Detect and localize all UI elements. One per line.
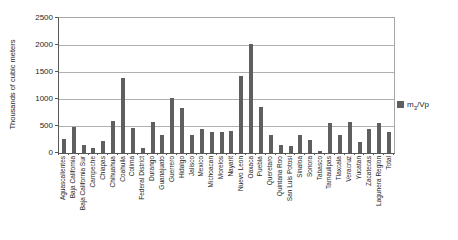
x-tick-mark (245, 153, 246, 155)
x-tick-mark (196, 153, 197, 155)
x-category-label: Federal District (138, 156, 145, 240)
bar-tamaulipas (328, 123, 332, 153)
y-tick-label: 0 (0, 148, 53, 157)
x-tick-mark (285, 153, 286, 155)
x-category-label: Veracruz (345, 156, 352, 240)
x-tick-mark (393, 153, 394, 155)
x-tick-mark (235, 153, 236, 155)
y-tick-mark (55, 17, 58, 18)
bar-san-luis-potosi (289, 146, 293, 153)
bar-chihuahua (111, 121, 115, 153)
x-tick-mark (176, 153, 177, 155)
x-category-label: Colima (128, 156, 135, 240)
x-category-label: Chiapas (99, 156, 106, 240)
x-tick-mark (255, 153, 256, 155)
x-category-label: Durango (148, 156, 155, 240)
bar-zacatecas (367, 129, 371, 153)
bar-sinaloa (298, 135, 302, 153)
bar-tlaxcala (338, 135, 342, 153)
x-category-label: Chihuahua (109, 156, 116, 240)
plot-area (58, 17, 395, 154)
x-tick-mark (137, 153, 138, 155)
bar-aguascalientes (62, 139, 66, 153)
y-tick-label: 1000 (0, 94, 53, 103)
y-tick-label: 2500 (0, 13, 53, 22)
bar-jalisco (190, 135, 194, 153)
y-tick-label: 2000 (0, 40, 53, 49)
x-category-label: Guerrero (168, 156, 175, 240)
bar-guerrero (170, 98, 174, 153)
x-category-label: Lagunera Region (375, 156, 382, 240)
gridline (59, 99, 394, 100)
bar-puebla (259, 107, 263, 153)
x-tick-mark (78, 153, 79, 155)
bar-quintana-roo (279, 145, 283, 153)
legend-swatch-icon (397, 101, 404, 108)
x-category-label: Baja California Sur (79, 156, 86, 240)
bar-guanajuato (160, 135, 164, 153)
gridline (59, 45, 394, 46)
bar-baja-california (72, 127, 76, 153)
x-category-label: Tamaulipas (325, 156, 332, 240)
x-tick-mark (88, 153, 89, 155)
x-tick-mark (304, 153, 305, 155)
bar-michoacan (210, 132, 214, 153)
bar-hidalgo (180, 108, 184, 153)
x-tick-mark (354, 153, 355, 155)
x-tick-mark (117, 153, 118, 155)
x-tick-mark (206, 153, 207, 155)
x-tick-mark (127, 153, 128, 155)
x-tick-mark (373, 153, 374, 155)
x-category-label: Morelos (217, 156, 224, 240)
x-category-label: Sinaloa (296, 156, 303, 240)
bar-sonora (308, 140, 312, 153)
x-tick-mark (383, 153, 384, 155)
bar-morelos (220, 132, 224, 153)
y-tick-mark (55, 44, 58, 45)
y-tick-label: 1500 (0, 67, 53, 76)
y-tick-mark (55, 125, 58, 126)
x-category-label: Zacatecas (365, 156, 372, 240)
legend-label: m3/Vp (407, 100, 429, 109)
bar-lagunera-region (377, 123, 381, 153)
bar-total (387, 132, 391, 153)
x-category-label: Coahuila (119, 156, 126, 240)
x-category-label: Aguascalientes (59, 156, 66, 240)
bar-colima (131, 128, 135, 153)
y-tick-mark (55, 71, 58, 72)
x-category-label: San Luis Potosi (286, 156, 293, 240)
gridline (59, 126, 394, 127)
bar-oaxaca (249, 44, 253, 153)
x-category-label: Tabasco (316, 156, 323, 240)
x-tick-mark (226, 153, 227, 155)
x-tick-mark (275, 153, 276, 155)
x-category-label: Total (385, 156, 392, 240)
x-tick-mark (324, 153, 325, 155)
x-category-label: Puebla (256, 156, 263, 240)
bar-nuevo-leon (239, 76, 243, 153)
x-category-label: Nuevo Leon (237, 156, 244, 240)
x-tick-mark (334, 153, 335, 155)
bar-queretaro (269, 135, 273, 153)
x-tick-mark (363, 153, 364, 155)
x-tick-mark (68, 153, 69, 155)
bar-campeche (91, 148, 95, 153)
x-tick-mark (107, 153, 108, 155)
x-category-label: Jalisco (188, 156, 195, 240)
bar-tabasco (318, 151, 322, 153)
bar-baja-california-sur (82, 145, 86, 153)
gridline (59, 72, 394, 73)
x-tick-mark (157, 153, 158, 155)
bar-nayarit (229, 131, 233, 153)
bar-chiapas (101, 141, 105, 153)
x-tick-mark (147, 153, 148, 155)
x-category-label: Michoacan (207, 156, 214, 240)
x-category-label: Oaxaca (247, 156, 254, 240)
x-category-label: Queretaro (266, 156, 273, 240)
x-category-label: Yucatan (355, 156, 362, 240)
x-category-label: Sonora (306, 156, 313, 240)
x-tick-mark (216, 153, 217, 155)
bar-mexico (200, 129, 204, 153)
bar-durango (151, 122, 155, 153)
x-category-label: Campeche (89, 156, 96, 240)
